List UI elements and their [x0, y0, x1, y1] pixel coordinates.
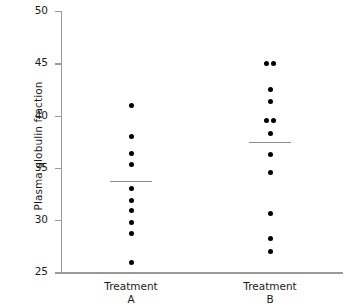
data-point [129, 260, 134, 265]
data-point [129, 231, 134, 236]
data-point [268, 152, 273, 157]
data-point [129, 103, 134, 108]
y-tick-mark [55, 168, 61, 169]
data-point [271, 118, 276, 123]
y-tick-mark [55, 116, 61, 117]
data-point [268, 99, 273, 104]
data-point [268, 87, 273, 92]
data-point [268, 211, 273, 216]
y-tick-label: 45 [18, 57, 48, 68]
data-point [264, 61, 269, 66]
x-category-label-line1: Treatment [243, 280, 296, 292]
data-point [268, 249, 273, 254]
x-category-label-line2: B [210, 293, 330, 306]
data-point [129, 134, 134, 139]
x-category-label: TreatmentB [210, 280, 330, 306]
y-tick-label: 30 [18, 214, 48, 225]
data-point [129, 151, 134, 156]
mean-line [110, 181, 152, 183]
y-tick-label: 50 [18, 5, 48, 16]
data-point [268, 131, 273, 136]
y-tick-label: 35 [18, 162, 48, 173]
y-tick-mark [55, 11, 61, 12]
y-tick-mark [55, 272, 61, 273]
data-point [129, 220, 134, 225]
data-point [268, 236, 273, 241]
x-axis-line [61, 272, 343, 273]
data-point [129, 198, 134, 203]
data-point [264, 118, 269, 123]
y-tick-label: 25 [18, 266, 48, 277]
data-point [268, 170, 273, 175]
mean-line [249, 142, 291, 144]
data-point [271, 61, 276, 66]
y-tick-mark [55, 220, 61, 221]
dot-plot-chart: Plasma globulin fraction 253035404550 Tr… [0, 0, 349, 308]
y-tick-mark [55, 63, 61, 64]
x-category-label-line2: A [71, 293, 191, 306]
data-point [129, 208, 134, 213]
data-point [129, 162, 134, 167]
data-point [129, 186, 134, 191]
y-axis-line [61, 11, 62, 273]
x-category-label-line1: Treatment [104, 280, 157, 292]
x-category-label: TreatmentA [71, 280, 191, 306]
y-tick-label: 40 [18, 110, 48, 121]
